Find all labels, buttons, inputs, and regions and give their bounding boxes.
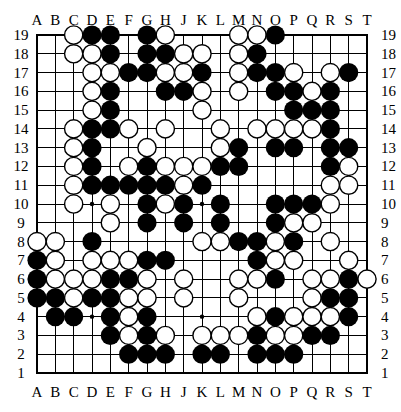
white-stone-o7 [266,251,284,269]
black-stone-n17 [247,63,266,82]
column-label-top: F [124,12,132,28]
column-label-bottom: K [197,384,208,400]
go-diagram: ABCDEFGHJKLMNOPQRST ABCDEFGHJKLMNOPQRST … [0,0,401,412]
column-label-top: K [197,12,208,28]
white-stone-j6 [175,270,193,288]
white-stone-j11 [175,176,193,194]
black-stone-b4 [46,307,65,326]
black-stone-d12 [82,157,101,176]
black-stone-n18 [247,44,266,63]
white-stone-c19 [65,26,83,44]
white-stone-q5 [303,289,321,307]
black-stone-k17 [192,63,211,82]
black-stone-n8 [247,232,266,251]
black-stone-r12 [321,157,340,176]
black-stone-o13 [266,138,285,157]
black-stone-r16 [321,82,340,101]
column-label-top: O [270,12,281,28]
column-label-top: P [289,12,297,28]
white-stone-j18 [175,45,193,63]
white-stone-h3 [156,326,174,344]
black-stone-l9 [211,213,230,232]
white-stone-k12 [193,157,211,175]
row-label-left: 17 [14,65,30,81]
black-stone-r15 [321,101,340,120]
row-label-left: 2 [17,346,25,362]
black-stone-p8 [284,232,303,251]
white-stone-m3 [230,326,248,344]
white-stone-k3 [193,326,211,344]
black-stone-o10 [266,194,285,213]
row-label-left: 13 [14,140,29,156]
column-label-top: B [50,12,60,28]
column-label-top: M [232,12,245,28]
white-stone-h19 [156,26,174,44]
black-stone-j16 [174,82,193,101]
white-stone-p3 [285,326,303,344]
white-stone-c11 [65,176,83,194]
column-label-bottom: O [270,384,281,400]
column-label-bottom: N [252,384,263,400]
black-stone-p2 [284,345,303,364]
black-stone-a7 [27,251,46,270]
black-stone-e14 [101,119,120,138]
black-stone-d13 [82,138,101,157]
white-stone-r17 [321,63,339,81]
black-stone-s17 [339,63,358,82]
black-stone-h11 [156,176,175,195]
white-stone-c18 [65,45,83,63]
row-label-right: 6 [381,271,389,287]
black-stone-k11 [192,176,211,195]
column-label-top: N [252,12,263,28]
black-stone-o16 [266,82,285,101]
white-stone-d18 [83,45,101,63]
white-stone-q6 [303,270,321,288]
row-label-right: 2 [381,346,389,362]
white-stone-g5 [138,289,156,307]
black-stone-g2 [137,345,156,364]
white-stone-m6 [230,270,248,288]
black-stone-l12 [211,157,230,176]
black-stone-e11 [101,176,120,195]
white-stone-j12 [175,157,193,175]
row-label-left: 19 [14,27,29,43]
black-stone-s5 [339,288,358,307]
black-stone-d8 [82,232,101,251]
column-label-bottom: G [142,384,153,400]
white-stone-o8 [266,232,284,250]
row-label-right: 1 [381,365,389,381]
column-label-top: A [32,12,43,28]
white-stone-g13 [138,139,156,157]
white-stone-f14 [120,120,138,138]
white-stone-h17 [156,63,174,81]
white-stone-p14 [285,120,303,138]
white-stone-s7 [340,251,358,269]
row-label-right: 7 [381,252,389,268]
black-stone-o9 [266,213,285,232]
white-stone-b7 [46,251,64,269]
white-stone-m18 [230,45,248,63]
black-stone-p13 [284,138,303,157]
white-stone-j5 [175,289,193,307]
column-label-top: D [87,12,98,28]
column-label-bottom: L [216,384,225,400]
white-stone-a8 [28,232,46,250]
white-stone-p17 [285,63,303,81]
white-stone-n6 [248,270,266,288]
column-label-bottom: E [106,384,115,400]
black-stone-d14 [82,119,101,138]
white-stone-d6 [83,270,101,288]
star-point-k10 [200,202,204,206]
white-stone-d16 [83,82,101,100]
black-stone-s6 [339,270,358,289]
black-stone-m12 [229,157,248,176]
black-stone-e6 [101,270,120,289]
black-stone-s13 [339,138,358,157]
white-stone-r4 [321,308,339,326]
column-label-top: G [142,12,153,28]
black-stone-l10 [211,194,230,213]
white-stone-e17 [101,63,119,81]
black-stone-h7 [156,251,175,270]
black-stone-r14 [321,119,340,138]
black-stone-f11 [119,176,138,195]
